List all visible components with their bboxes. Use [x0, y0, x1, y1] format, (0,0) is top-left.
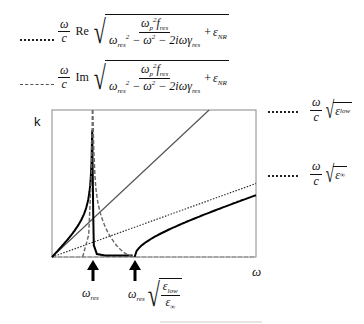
sqrt-icon: √ — [325, 97, 334, 124]
omega-numerator: ω — [310, 96, 322, 111]
res-sub: res — [90, 294, 98, 302]
side-swatch-low — [268, 111, 298, 113]
arrow-omega-res — [87, 260, 99, 281]
radicand-sub: ∞ — [340, 171, 345, 179]
res-sub: res — [136, 295, 144, 303]
radicand-sub: low — [340, 107, 350, 115]
low-sub: low — [168, 287, 178, 295]
eps-low-line — [52, 110, 209, 257]
real-part-upper-branch — [135, 195, 256, 257]
imag-part-rising — [83, 110, 93, 257]
sqrt-icon: √ — [325, 161, 334, 188]
omega-numerator: ω — [310, 160, 322, 175]
marker-label-omega-upper: ωres √ εlowε∞ — [128, 278, 182, 312]
sqrt-icon: √ — [148, 275, 160, 314]
imag-part-falling — [93, 110, 135, 257]
c-denominator: c — [312, 175, 321, 189]
side-label-eps-inf: ωc √ε∞ — [310, 160, 347, 189]
inf-sub: ∞ — [170, 304, 175, 312]
marker-label-omega-res: ωres — [82, 286, 99, 302]
side-swatch-inf — [268, 175, 298, 177]
c-denominator: c — [312, 111, 321, 125]
side-label-eps-low: ωc √εlow — [310, 96, 352, 125]
eps-inf-line — [52, 184, 256, 258]
plot-frame — [52, 110, 256, 257]
